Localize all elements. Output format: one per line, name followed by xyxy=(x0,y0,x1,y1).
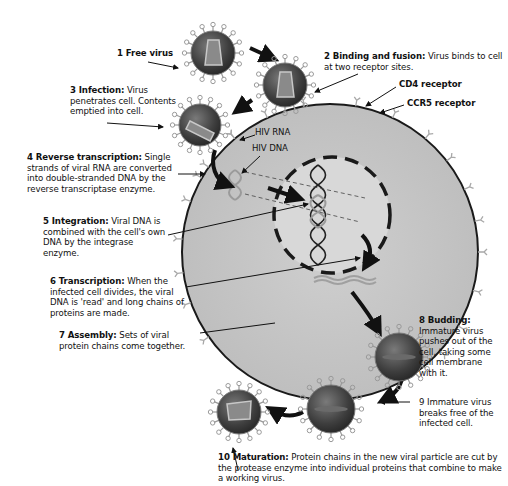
step-2-label: 2 Binding and fusion: Virus binds to cel… xyxy=(324,51,504,72)
virus-spike-tip xyxy=(200,24,204,28)
virus-spike-tip xyxy=(237,62,241,66)
virus-spike-tip xyxy=(256,94,260,98)
virus-spike-tip xyxy=(340,435,344,439)
receptor-icon xyxy=(200,337,209,345)
virus-spike-tip xyxy=(307,428,311,432)
virus-spike-tip xyxy=(223,133,227,137)
hiv-dna-label: HIV DNA xyxy=(252,143,288,154)
virus-spike-tip xyxy=(191,71,195,75)
virus-spike-tip xyxy=(256,72,260,76)
receptor-icon xyxy=(200,159,209,167)
virus-spike-tip xyxy=(317,435,321,439)
virus-spike-tip xyxy=(217,430,221,434)
virus-spike-tip xyxy=(309,94,313,98)
virus-spike-tip xyxy=(222,24,226,28)
virus-spike-tip xyxy=(200,77,204,81)
receptor-icon xyxy=(475,216,484,222)
virus-spike-tip xyxy=(263,63,267,67)
virus-spike-tip xyxy=(248,383,252,387)
virus-spike-tip xyxy=(231,31,235,35)
receptor-icon xyxy=(425,130,433,139)
virus-spike-tip xyxy=(223,112,227,116)
virus-spike-tip xyxy=(408,383,412,387)
virus-spike-tip xyxy=(217,103,221,107)
step-10-label: 10 Maturation: Protein chains in the new… xyxy=(218,452,508,484)
virus-capsid xyxy=(277,72,294,97)
virus-spike-tip xyxy=(210,399,214,403)
receptor-icon xyxy=(173,235,182,241)
arrow-1-to-2 xyxy=(250,48,272,58)
receptor-icon xyxy=(354,97,360,106)
virus-mature xyxy=(208,381,269,442)
virus-spike-tip xyxy=(226,436,230,440)
receptor-icon xyxy=(261,108,268,117)
virus-spike-tip xyxy=(357,418,361,422)
nucleus xyxy=(274,157,390,273)
virus-spike-tip xyxy=(208,148,212,152)
virus-spike-tip xyxy=(187,148,191,152)
virus-core xyxy=(382,354,416,360)
virus-spike-tip xyxy=(263,399,267,403)
virus-envelope xyxy=(179,104,221,146)
virus-spike-tip xyxy=(231,71,235,75)
virus-binding xyxy=(254,54,315,115)
receptor-icon xyxy=(447,153,456,161)
virus-spike-tip xyxy=(178,142,182,146)
virus-spike-tip xyxy=(184,40,188,44)
virus-spike-tip xyxy=(301,418,305,422)
arrow-2-to-3 xyxy=(238,100,252,110)
receptor-icon xyxy=(227,130,235,139)
receptor-icon xyxy=(393,108,400,117)
virus-spike-tip xyxy=(226,383,230,387)
virus-spike-tip xyxy=(263,421,267,425)
virus-spike-tip xyxy=(172,133,176,137)
step-9-label: 9 Immature virus breaks free of the infe… xyxy=(419,397,494,429)
hiv-rna-label: HIV RNA xyxy=(255,127,290,138)
virus-spike-tip xyxy=(222,77,226,81)
virus-immature xyxy=(298,376,363,441)
virus-spike-tip xyxy=(248,436,252,440)
virus-spike-tip xyxy=(263,103,267,107)
virus-core xyxy=(314,406,348,412)
virus-spike-tip xyxy=(217,390,221,394)
virus-spike-tip xyxy=(272,56,276,60)
virus-spike-tip xyxy=(350,428,354,432)
step-4-label: 4 Reverse transcription: Single strands … xyxy=(27,152,182,194)
virus-spike-tip xyxy=(294,56,298,60)
cd4-receptor-label: CD4 receptor xyxy=(399,79,462,90)
virus-spike-tip xyxy=(303,63,307,67)
virus-free xyxy=(182,22,243,83)
virus-spike-tip xyxy=(272,109,276,113)
virus-spike-tip xyxy=(217,142,221,146)
virus-capsid xyxy=(227,401,251,420)
virus-spike-tip xyxy=(184,62,188,66)
receptor-icon xyxy=(478,249,487,255)
virus-spike-tip xyxy=(187,97,191,101)
arrow-9-to-10 xyxy=(272,410,303,416)
receptor-icon xyxy=(464,183,473,190)
virus-spike-tip xyxy=(237,40,241,44)
receptor-icon xyxy=(473,290,482,296)
step-3-label: 3 Infection: Virus penetrates cell. Cont… xyxy=(70,85,185,117)
step-7-label: 7 Assembly: Sets of viral protein chains… xyxy=(59,330,199,351)
step-8-label: 8 Budding: Immature virus pushes out of … xyxy=(419,315,499,379)
virus-spike-tip xyxy=(208,97,212,101)
virus-spike-tip xyxy=(210,421,214,425)
virus-spike-tip xyxy=(309,72,313,76)
virus-spike-tip xyxy=(191,31,195,35)
virus-spike-tip xyxy=(257,430,261,434)
receptor-icon xyxy=(181,195,190,201)
ccr5-receptor-label: CCR5 receptor xyxy=(407,98,475,109)
virus-capsid xyxy=(205,40,222,65)
step-6-label: 6 Transcription: When the infected cell … xyxy=(50,276,185,318)
step-1-label: 1 Free virus xyxy=(117,48,173,59)
step-5-label: 5 Integration: Viral DNA is combined wit… xyxy=(43,216,168,258)
virus-spike-tip xyxy=(257,390,261,394)
